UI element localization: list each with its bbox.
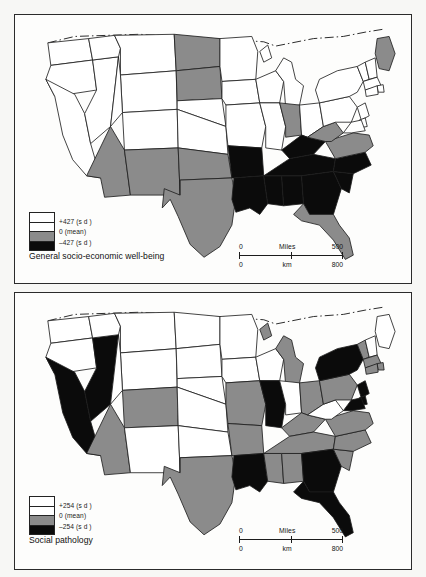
scale-line (239, 252, 343, 259)
scale-row-km: 0 km 800 (239, 260, 343, 269)
scale-line (239, 536, 343, 543)
running-head (0, 0, 426, 5)
scale-bar-bottom: 0 Miles 500 0 km 800 (239, 526, 343, 553)
scale-row-miles: 0 Miles 500 (239, 242, 343, 251)
legend-label-high: +254 (s d ) (59, 501, 92, 511)
legend-swatch-stack: +427 (s d ) 0 (mean) –427 (s d ) (29, 212, 164, 251)
legend-label-mean: 0 (mean) (59, 227, 92, 237)
scale-row-miles: 0 Miles 500 (239, 526, 343, 535)
legend-swatch-low (29, 241, 55, 252)
figure-caption-top: General socio-economic well-being (29, 251, 164, 261)
legend-swatch-low (29, 525, 55, 536)
legend-top: +427 (s d ) 0 (mean) –427 (s d ) General… (29, 212, 164, 261)
legend-swatch-stack: +254 (s d ) 0 (mean) –254 (s d ) (29, 496, 93, 535)
scale-miles-unit: Miles (243, 527, 332, 534)
scale-tick-start (239, 536, 240, 543)
legend-label-stack: +254 (s d ) 0 (mean) –254 (s d ) (59, 496, 92, 527)
scale-tick-mid (291, 536, 292, 543)
figure-page: +427 (s d ) 0 (mean) –427 (s d ) General… (0, 0, 426, 577)
legend-bottom: +254 (s d ) 0 (mean) –254 (s d ) Social … (29, 496, 93, 545)
legend-label-low: –427 (s d ) (59, 238, 92, 248)
figure-caption-bottom: Social pathology (29, 535, 93, 545)
legend-label-mean: 0 (mean) (59, 511, 92, 521)
scale-km-right: 800 (332, 261, 343, 268)
scale-tick-mid (291, 252, 292, 259)
legend-label-high: +427 (s d ) (59, 217, 92, 227)
scale-km-right: 800 (332, 545, 343, 552)
scale-miles-right: 500 (332, 243, 343, 250)
scale-row-km: 0 km 800 (239, 544, 343, 553)
scale-miles-right: 500 (332, 527, 343, 534)
scale-miles-unit: Miles (243, 243, 332, 250)
scale-bar-top: 0 Miles 500 0 km 800 (239, 242, 343, 269)
scale-tick-start (239, 252, 240, 259)
legend-label-stack: +427 (s d ) 0 (mean) –427 (s d ) (59, 212, 92, 243)
scale-km-unit: km (243, 261, 332, 268)
figure-general-socio-economic-well-being: +427 (s d ) 0 (mean) –427 (s d ) General… (14, 14, 412, 284)
legend-label-low: –254 (s d ) (59, 522, 92, 532)
scale-tick-end (342, 536, 343, 543)
scale-km-unit: km (243, 545, 332, 552)
figure-social-pathology: +254 (s d ) 0 (mean) –254 (s d ) Social … (14, 292, 412, 570)
scale-tick-end (342, 252, 343, 259)
